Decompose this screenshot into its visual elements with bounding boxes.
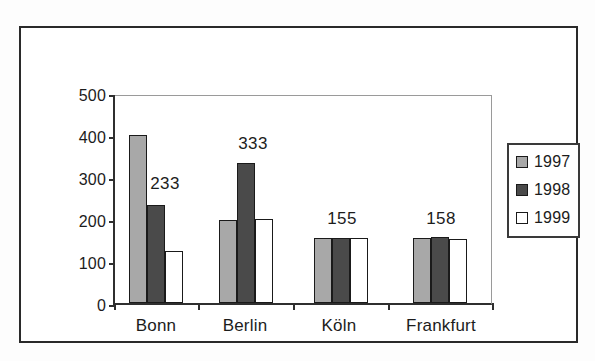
bar-koln-1999[interactable]	[350, 238, 368, 303]
x-tick-mark-2	[293, 303, 295, 310]
y-tick-label-200: 200	[79, 213, 106, 231]
bar-chart-figure: 500 400 300 200 100	[0, 0, 595, 361]
bar-berlin-1997[interactable]	[219, 220, 237, 303]
data-label-berlin-1998: 333	[238, 134, 267, 154]
x-label-frankfurt: Frankfurt	[406, 316, 476, 336]
y-tick-label-500: 500	[79, 87, 106, 105]
bar-koln-1997[interactable]	[314, 238, 332, 303]
legend-label-1997: 1997	[534, 153, 570, 171]
legend-label-1998: 1998	[534, 181, 570, 199]
data-label-frankfurt-1998: 158	[426, 209, 455, 229]
x-tick-mark-3	[388, 303, 390, 310]
y-tick-label-300: 300	[79, 171, 106, 189]
legend-item-1997[interactable]: 1997	[516, 153, 571, 171]
bar-koln-1998[interactable]	[332, 238, 350, 303]
x-label-bonn: Bonn	[136, 316, 177, 336]
legend-swatch-icon-1999	[516, 212, 528, 224]
x-label-koln: Köln	[322, 316, 357, 336]
legend-item-1998[interactable]: 1998	[516, 181, 571, 199]
data-label-koln-1998: 155	[327, 209, 356, 229]
bar-frankfurt-1998[interactable]	[431, 237, 449, 303]
y-tick-label-0: 0	[97, 297, 106, 315]
x-tick-mark-0	[114, 303, 116, 310]
bar-frankfurt-1999[interactable]	[449, 239, 467, 303]
bar-bonn-1998[interactable]	[147, 205, 165, 303]
legend-swatch-icon-1998	[516, 184, 528, 196]
bar-berlin-1999[interactable]	[255, 219, 273, 303]
bar-group-bonn	[114, 96, 198, 303]
x-tick-mark-1	[198, 303, 200, 310]
bar-bonn-1997[interactable]	[129, 135, 147, 303]
legend-item-1999[interactable]: 1999	[516, 209, 571, 227]
y-tick-label-400: 400	[79, 129, 106, 147]
legend-swatch-icon-1997	[516, 156, 528, 168]
bar-berlin-1998[interactable]	[237, 163, 255, 303]
chart-outer-frame: 500 400 300 200 100	[19, 26, 578, 343]
x-tick-mark-4	[492, 303, 494, 310]
bar-frankfurt-1997[interactable]	[413, 238, 431, 303]
plot-area: 500 400 300 200 100	[113, 95, 492, 305]
x-label-berlin: Berlin	[223, 316, 268, 336]
bar-group-frankfurt	[388, 96, 492, 303]
data-label-bonn-1998: 233	[150, 174, 179, 194]
bar-group-koln	[293, 96, 388, 303]
legend-label-1999: 1999	[534, 209, 570, 227]
bar-bonn-1999[interactable]	[165, 251, 183, 304]
bar-group-berlin	[198, 96, 293, 303]
chart-legend: 1997 1998 1999	[507, 143, 580, 238]
y-tick-label-100: 100	[79, 255, 106, 273]
